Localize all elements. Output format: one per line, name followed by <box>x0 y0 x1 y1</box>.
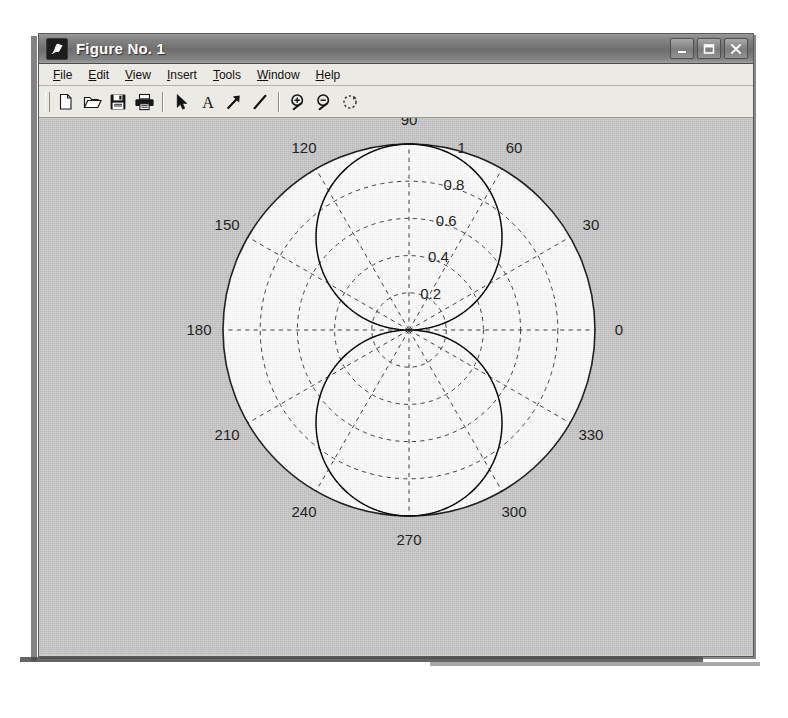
angle-tick-label-270: 270 <box>396 531 421 548</box>
angle-tick-label-210: 210 <box>215 426 240 443</box>
menu-window[interactable]: Window <box>249 66 308 84</box>
menu-window-label: indow <box>268 68 299 82</box>
page-edge-shadow-left <box>31 36 37 661</box>
angle-tick-label-120: 120 <box>291 139 316 156</box>
radial-tick-label-0.8: 0.8 <box>443 176 464 193</box>
toolbar: A <box>39 86 753 118</box>
angle-tick-label-330: 330 <box>578 426 603 443</box>
angle-tick-label-60: 60 <box>506 139 523 156</box>
screenshot-root: Figure No. 1 <box>0 0 788 718</box>
angle-tick-label-90: 90 <box>401 118 418 128</box>
menu-file-label: ile <box>60 68 72 82</box>
menu-insert[interactable]: Insert <box>159 66 205 84</box>
angle-tick-label-180: 180 <box>186 321 211 338</box>
polar-plot[interactable]: 03060901201501802102402703003300.20.40.6… <box>39 118 753 655</box>
angle-tick-label-0: 0 <box>615 321 623 338</box>
angle-tick-label-150: 150 <box>215 216 240 233</box>
maximize-button[interactable] <box>697 38 721 59</box>
menu-tools[interactable]: Tools <box>205 66 249 84</box>
toolbar-grip[interactable] <box>45 92 50 112</box>
window-controls <box>670 38 748 59</box>
rotate-3d-icon[interactable] <box>337 89 363 115</box>
insert-line-icon[interactable] <box>247 89 273 115</box>
radial-tick-label-0.4: 0.4 <box>428 248 449 265</box>
radial-tick-label-0.2: 0.2 <box>420 285 441 302</box>
angle-tick-label-240: 240 <box>291 503 316 520</box>
save-disk-icon[interactable] <box>105 89 131 115</box>
menu-edit-label: dit <box>96 68 109 82</box>
zoom-in-icon[interactable] <box>285 89 311 115</box>
menu-view-label: iew <box>133 68 151 82</box>
close-button[interactable] <box>724 38 748 59</box>
menu-help[interactable]: Help <box>308 66 349 84</box>
menu-tools-label: ools <box>219 68 241 82</box>
new-document-icon[interactable] <box>53 89 79 115</box>
menu-help-label: elp <box>324 68 340 82</box>
toolbar-separator-2 <box>278 92 280 112</box>
menu-edit[interactable]: Edit <box>80 66 117 84</box>
radial-tick-label-0.6: 0.6 <box>436 212 457 229</box>
menu-file[interactable]: File <box>45 66 80 84</box>
toolbar-separator-1 <box>162 92 164 112</box>
minimize-button[interactable] <box>670 38 694 59</box>
text-A-icon[interactable]: A <box>195 89 221 115</box>
menu-insert-label: nsert <box>170 68 197 82</box>
angle-tick-label-300: 300 <box>501 503 526 520</box>
figure-canvas[interactable]: 03060901201501802102402703003300.20.40.6… <box>39 118 753 655</box>
page-edge-shadow-bottom-right <box>430 662 760 666</box>
menu-view[interactable]: View <box>117 66 159 84</box>
svg-text:A: A <box>202 94 214 111</box>
angle-tick-label-30: 30 <box>583 216 600 233</box>
title-bar[interactable]: Figure No. 1 <box>39 34 753 64</box>
arrow-pointer-icon[interactable] <box>169 89 195 115</box>
window-title: Figure No. 1 <box>76 40 165 57</box>
figure-window: Figure No. 1 <box>38 33 754 657</box>
matlab-membrane-icon <box>46 38 68 60</box>
radial-tick-label-1: 1 <box>458 139 466 156</box>
printer-icon[interactable] <box>131 89 157 115</box>
open-folder-icon[interactable] <box>79 89 105 115</box>
insert-arrow-icon[interactable] <box>221 89 247 115</box>
menu-bar: File Edit View Insert Tools Window Help <box>39 64 753 86</box>
zoom-out-icon[interactable] <box>311 89 337 115</box>
